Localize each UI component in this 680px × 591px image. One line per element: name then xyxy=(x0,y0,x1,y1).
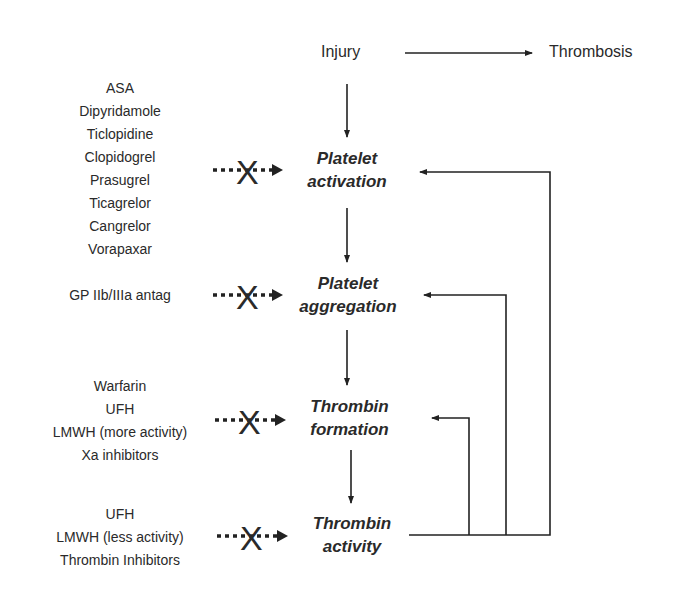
injury-label: Injury xyxy=(321,43,360,61)
inhibit-x-2: X xyxy=(236,282,259,312)
node-thrombin-formation: Thrombin formation xyxy=(297,395,402,441)
drug-group-anticoagulant: Warfarin UFH LMWH (more activity) Xa inh… xyxy=(20,375,220,467)
node-thrombin-activity: Thrombin activity xyxy=(302,512,402,558)
thrombosis-label: Thrombosis xyxy=(549,43,633,61)
feedback-to-aggregation xyxy=(424,295,506,535)
feedback-to-formation xyxy=(432,418,469,535)
node-platelet-activation: Platelet activation xyxy=(297,147,397,193)
drug-group-gp2b3a: GP IIb/IIIa antag xyxy=(40,284,200,307)
inhibit-x-3: X xyxy=(238,407,261,437)
drug-group-thrombin-inhibitors: UFH LMWH (less activity) Thrombin Inhibi… xyxy=(20,503,220,572)
inhibit-x-1: X xyxy=(236,157,259,187)
node-platelet-aggregation: Platelet aggregation xyxy=(292,272,404,318)
drug-group-antiplatelet: ASA Dipyridamole Ticlopidine Clopidogrel… xyxy=(40,77,200,261)
feedback-to-activation xyxy=(409,172,550,535)
inhibit-x-4: X xyxy=(240,523,263,553)
